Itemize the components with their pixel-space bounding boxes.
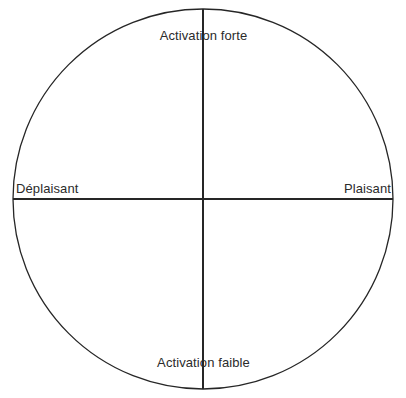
axis-label-activation-faible: Activation faible bbox=[0, 356, 406, 370]
circumplex-diagram-canvas bbox=[0, 0, 406, 398]
axis-label-activation-forte: Activation forte bbox=[0, 29, 406, 43]
axis-label-deplaisant: Déplaisant bbox=[16, 182, 78, 196]
axis-label-plaisant: Plaisant bbox=[344, 182, 391, 196]
circumplex-figure: Activation forte Déplaisant Plaisant Act… bbox=[0, 0, 406, 398]
